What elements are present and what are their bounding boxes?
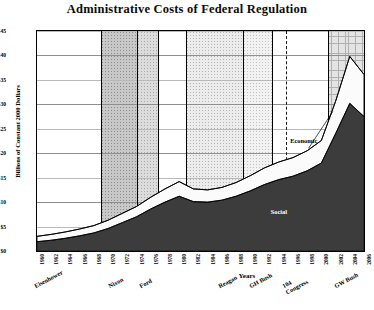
x-tick-9: 1978 bbox=[167, 254, 173, 265]
x-tick-11: 1982 bbox=[195, 254, 201, 265]
x-tick-14: 1988 bbox=[238, 254, 244, 265]
x-tick-2: 1964 bbox=[67, 254, 73, 265]
x-tick-4: 1968 bbox=[96, 254, 102, 265]
x-tick-7: 1974 bbox=[139, 254, 145, 265]
x-tick-13: 1986 bbox=[224, 254, 230, 265]
x-tick-10: 1980 bbox=[181, 254, 187, 265]
x-tick-5: 1970 bbox=[110, 254, 116, 265]
x-tick-20: 2000 bbox=[323, 254, 329, 265]
x-tick-19: 1998 bbox=[309, 254, 315, 265]
y-tick-3: $15 bbox=[0, 175, 6, 181]
y-tick-9: $45 bbox=[0, 28, 6, 34]
y-tick-5: $25 bbox=[0, 126, 6, 132]
y-tick-0: $0 bbox=[0, 248, 6, 254]
chart-title: Administrative Costs of Federal Regulati… bbox=[0, 2, 374, 17]
era-label-reagan: Reagan bbox=[217, 274, 238, 290]
x-tick-8: 1976 bbox=[153, 254, 159, 265]
x-tick-22: 2004 bbox=[352, 254, 358, 265]
x-tick-23: 2006 bbox=[366, 254, 372, 265]
era-label-gw-bush: GW Bush bbox=[333, 271, 359, 289]
era-label-104-congress: 104 Congress bbox=[281, 271, 311, 296]
x-tick-0: 1960 bbox=[39, 254, 45, 265]
x-tick-15: 1990 bbox=[252, 254, 258, 265]
y-tick-4: $20 bbox=[0, 150, 6, 156]
y-tick-7: $35 bbox=[0, 77, 6, 83]
plot-area: Economic Social bbox=[36, 30, 365, 252]
x-tick-21: 2002 bbox=[338, 254, 344, 265]
y-axis-title: Billions of Constant 2000 Dollars bbox=[14, 52, 21, 212]
x-tick-16: 1992 bbox=[266, 254, 272, 265]
y-tick-1: $5 bbox=[0, 224, 6, 230]
x-tick-3: 1966 bbox=[82, 254, 88, 265]
chart-container: Administrative Costs of Federal Regulati… bbox=[0, 0, 374, 310]
y-tick-8: $40 bbox=[0, 52, 6, 58]
annotation-economic: Economic bbox=[290, 137, 317, 144]
era-label-ford: Ford bbox=[138, 277, 153, 289]
x-axis-title: Years bbox=[239, 272, 256, 280]
era-label-eisenhower: Eisenhower bbox=[33, 268, 64, 289]
y-tick-6: $30 bbox=[0, 101, 6, 107]
x-tick-12: 1984 bbox=[210, 254, 216, 265]
x-tick-1: 1962 bbox=[53, 254, 59, 265]
annotation-social: Social bbox=[271, 208, 287, 215]
x-tick-18: 1996 bbox=[295, 254, 301, 265]
era-label-nixon: Nixon bbox=[107, 276, 124, 290]
x-tick-17: 1994 bbox=[281, 254, 287, 265]
x-tick-6: 1972 bbox=[124, 254, 130, 265]
y-tick-2: $10 bbox=[0, 199, 6, 205]
